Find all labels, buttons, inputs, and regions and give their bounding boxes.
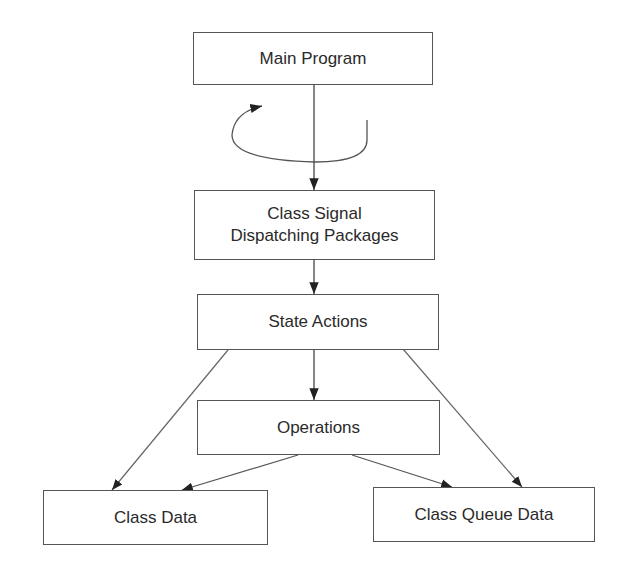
edge-loop	[232, 106, 367, 162]
node-class-data: Class Data	[43, 490, 268, 545]
node-label: Class Queue Data	[415, 504, 554, 526]
edge-operations-to-classdata	[182, 455, 298, 490]
edge-operations-to-queuedata	[352, 455, 452, 487]
node-label-line1: Class Signal	[267, 203, 362, 225]
node-main-program: Main Program	[193, 32, 433, 85]
node-operations: Operations	[197, 400, 440, 455]
node-label-line2: Dispatching Packages	[230, 225, 398, 247]
node-class-queue-data: Class Queue Data	[373, 487, 595, 542]
node-state-actions: State Actions	[197, 294, 439, 350]
node-class-signal-dispatching: Class Signal Dispatching Packages	[194, 190, 435, 260]
node-label: Class Data	[114, 507, 197, 529]
node-label: Operations	[277, 417, 360, 439]
node-label: State Actions	[268, 311, 367, 333]
node-label: Main Program	[260, 48, 367, 70]
